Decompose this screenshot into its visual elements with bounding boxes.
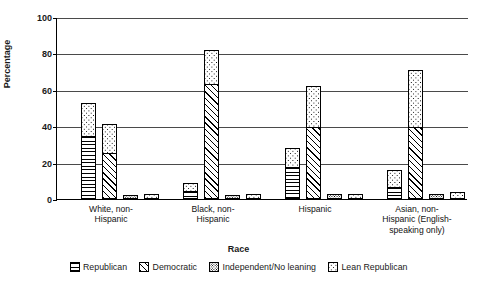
y-tick-mark xyxy=(53,200,57,201)
legend-item-1: Republican xyxy=(70,262,128,272)
category-label-line: Black, non- xyxy=(158,204,268,214)
legend-label: Republican xyxy=(83,262,127,272)
bar-segment-base xyxy=(145,195,158,198)
category-label-line: Hispanic xyxy=(56,214,166,224)
legend-label: Democratic xyxy=(153,262,197,272)
y-axis-title: Percentage xyxy=(2,18,14,110)
y-tick-label: 20 xyxy=(42,159,52,169)
legend-item-3: Independent/No leaning xyxy=(209,262,316,272)
legend-item-2: Democratic xyxy=(139,262,197,272)
y-tick-label: 60 xyxy=(42,86,52,96)
gridline xyxy=(57,127,468,128)
bar-independent-no-leaning xyxy=(429,194,444,199)
legend-item-4: Lean Republican xyxy=(328,262,408,272)
gridline xyxy=(57,54,468,55)
bar-segment-lean xyxy=(205,51,218,84)
bar-segment-lean xyxy=(82,104,95,137)
category-label-3: Hispanic xyxy=(260,204,370,214)
bar-segment-base xyxy=(247,195,260,198)
y-tick-mark xyxy=(53,127,57,128)
chart-root: Percentage 020406080100 White, non-Hispa… xyxy=(0,0,477,286)
legend-label: Independent/No leaning xyxy=(223,262,316,272)
bar-independent-no-leaning xyxy=(123,195,138,199)
y-tick-mark xyxy=(53,91,57,92)
y-tick-mark xyxy=(53,54,57,55)
y-tick-label: 40 xyxy=(42,122,52,132)
bar-segment-lean xyxy=(409,71,422,127)
bar-segment-base xyxy=(409,127,422,198)
category-label-line: speaking only) xyxy=(362,225,472,235)
gridline xyxy=(57,164,468,165)
bar-republican xyxy=(387,170,402,199)
legend-swatch-icon xyxy=(328,262,338,272)
bar-lean-republican xyxy=(144,194,159,199)
bar-lean-republican xyxy=(450,192,465,199)
bar-lean-republican xyxy=(246,194,261,199)
category-label-line: Hispanic xyxy=(158,214,268,224)
bar-segment-base xyxy=(124,196,137,198)
bar-democratic xyxy=(204,50,219,199)
category-label-line: Hispanic (English- xyxy=(362,214,472,224)
bar-segment-base xyxy=(328,195,341,198)
category-label-line: White, non- xyxy=(56,204,166,214)
bar-independent-no-leaning xyxy=(327,194,342,199)
bar-independent-no-leaning xyxy=(225,195,240,199)
bar-segment-lean xyxy=(388,171,401,187)
chart-legend: RepublicanDemocraticIndependent/No leani… xyxy=(0,262,477,272)
bar-segment-base xyxy=(103,153,116,198)
gridline xyxy=(57,91,468,92)
plot-area: 020406080100 xyxy=(56,18,467,200)
y-tick-mark xyxy=(53,18,57,19)
bar-segment-base xyxy=(205,84,218,198)
bar-democratic xyxy=(102,124,117,199)
bar-segment-base xyxy=(286,167,299,198)
legend-swatch-icon xyxy=(70,262,80,272)
legend-swatch-icon xyxy=(139,262,149,272)
category-label-2: Black, non-Hispanic xyxy=(158,204,268,225)
bar-segment-base xyxy=(388,187,401,198)
bar-segment-base xyxy=(451,193,464,198)
y-tick-label: 0 xyxy=(47,195,52,205)
legend-label: Lean Republican xyxy=(341,262,407,272)
bar-segment-base xyxy=(226,196,239,198)
bar-republican xyxy=(183,183,198,199)
bar-republican xyxy=(285,148,300,199)
bar-segment-lean xyxy=(103,125,116,152)
y-tick-mark xyxy=(53,164,57,165)
y-tick-label: 100 xyxy=(37,13,52,23)
y-tick-label: 80 xyxy=(42,49,52,59)
legend-swatch-icon xyxy=(209,262,219,272)
bar-segment-base xyxy=(349,195,362,198)
bar-segment-base xyxy=(307,127,320,198)
category-label-4: Asian, non-Hispanic (English-speaking on… xyxy=(362,204,472,235)
bar-segment-lean xyxy=(184,184,197,191)
bar-segment-lean xyxy=(307,87,320,127)
category-label-1: White, non-Hispanic xyxy=(56,204,166,225)
bar-segment-base xyxy=(184,191,197,198)
category-label-line: Hispanic xyxy=(260,204,370,214)
bar-lean-republican xyxy=(348,194,363,199)
gridline xyxy=(57,18,468,19)
bar-democratic xyxy=(408,70,423,199)
category-label-line: Asian, non- xyxy=(362,204,472,214)
bar-democratic xyxy=(306,86,321,199)
bar-segment-base xyxy=(82,136,95,198)
bar-segment-base xyxy=(430,195,443,198)
bar-segment-lean xyxy=(286,149,299,167)
bar-republican xyxy=(81,103,96,199)
x-axis-title: Race xyxy=(0,244,477,254)
